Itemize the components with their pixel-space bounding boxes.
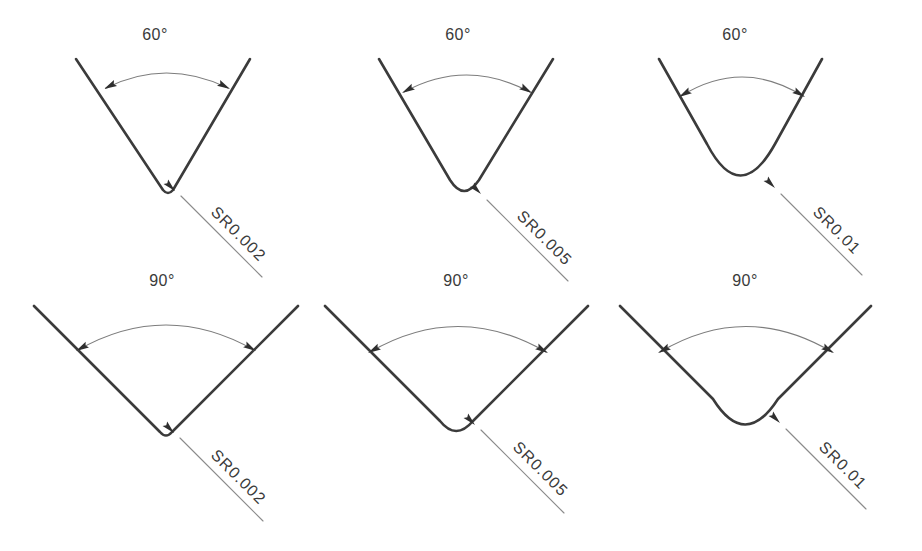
groove-cell-60-005: 60° SR0.005 xyxy=(379,26,575,281)
angle-dimension-arc xyxy=(660,327,832,353)
angle-label: 60° xyxy=(445,26,470,43)
angle-arrowhead-left xyxy=(102,80,117,92)
angle-label: 60° xyxy=(142,26,167,43)
angle-dimension-arc xyxy=(106,73,228,88)
groove-cell-90-01: 90° SR0.01 xyxy=(620,272,871,509)
angle-dimension-arc xyxy=(404,75,530,92)
groove-profile-path xyxy=(379,59,553,191)
groove-cell-60-01: 60° SR0.01 xyxy=(659,26,864,275)
angle-dimension-arc xyxy=(370,327,546,353)
radius-label: SR0.005 xyxy=(514,207,575,268)
groove-profile-path xyxy=(76,59,250,193)
angle-dimension-arc xyxy=(681,77,803,96)
groove-cell-90-002: 90° SR0.002 xyxy=(34,272,298,521)
radius-label: SR0.002 xyxy=(208,203,269,264)
radius-label: SR0.002 xyxy=(208,446,269,507)
angle-arrowhead-right xyxy=(217,80,232,92)
radius-label: SR0.01 xyxy=(816,438,870,492)
groove-profile-path xyxy=(325,306,588,431)
groove-cell-60-002: 60° SR0.002 xyxy=(76,26,269,277)
radius-arrowhead xyxy=(764,176,778,190)
radius-arrowhead xyxy=(769,411,783,425)
angle-label: 90° xyxy=(732,272,757,289)
groove-cell-90-005: 90° SR0.005 xyxy=(325,272,588,513)
angle-label: 60° xyxy=(722,26,747,43)
groove-profile-path xyxy=(620,306,871,425)
angle-dimension-arc xyxy=(78,325,254,350)
v-groove-figure: 60° SR0.002 60° SR0.005 xyxy=(0,0,922,551)
angle-label: 90° xyxy=(443,272,468,289)
angle-label: 90° xyxy=(149,272,174,289)
angle-arrowhead-left xyxy=(400,84,415,96)
